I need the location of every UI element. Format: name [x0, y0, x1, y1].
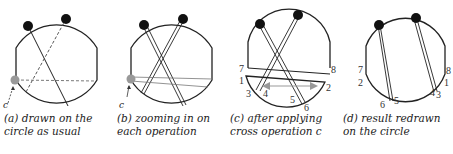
- panel-c: 7 8 1 2 3 4 5 6 (c) after applying cross…: [226, 0, 339, 154]
- svg-text:3: 3: [436, 89, 441, 100]
- caption-line-2: circle as usual: [4, 125, 116, 138]
- circle-diagram-a: [0, 0, 113, 112]
- panel-a: c (a) drawn on the circle as usual: [0, 0, 113, 154]
- svg-text:8: 8: [446, 65, 451, 76]
- svg-text:5: 5: [290, 94, 295, 105]
- svg-text:3: 3: [246, 88, 251, 99]
- svg-text:7: 7: [239, 63, 244, 74]
- caption-b: (b) zooming in on each operation: [117, 112, 229, 138]
- marker-label: c: [3, 99, 115, 112]
- svg-text:8: 8: [331, 64, 336, 75]
- svg-text:6: 6: [304, 102, 309, 112]
- caption-line-1: (a) drawn on the: [4, 112, 116, 125]
- svg-text:2: 2: [326, 82, 331, 93]
- circle-diagram-c: 7 8 1 2 3 4 5 6: [226, 0, 339, 112]
- caption-line-2: each operation: [117, 125, 229, 138]
- caption-line-1: (b) zooming in on: [117, 112, 229, 125]
- circle-diagram-d: 7 2 8 1 4 3 5 6: [339, 0, 453, 112]
- caption-d: (d) result redrawn on the circle: [343, 112, 453, 138]
- svg-text:4: 4: [430, 87, 435, 98]
- marker-label: c: [119, 99, 231, 112]
- caption-line-2: cross operation c: [230, 125, 342, 138]
- caption-a: (a) drawn on the circle as usual: [4, 112, 116, 138]
- svg-text:7: 7: [358, 64, 363, 75]
- cross-node: [11, 76, 20, 85]
- svg-text:5: 5: [394, 95, 399, 106]
- circle-diagram-b: [113, 0, 226, 112]
- svg-text:6: 6: [380, 99, 385, 110]
- node-right: [61, 14, 71, 24]
- caption-line-1: (c) after applying: [230, 112, 342, 125]
- svg-text:1: 1: [444, 77, 449, 88]
- caption-line-1: (d) result redrawn: [343, 112, 453, 125]
- caption-line-2: on the circle: [343, 125, 453, 138]
- svg-text:2: 2: [358, 77, 363, 88]
- svg-text:1: 1: [239, 75, 244, 86]
- panel-b: c (b) zooming in on each operation: [113, 0, 226, 154]
- caption-c: (c) after applying cross operation c: [230, 112, 342, 138]
- node-left: [23, 21, 33, 31]
- panel-d: 7 2 8 1 4 3 5 6 (d) result redrawn on th…: [339, 0, 452, 154]
- svg-text:4: 4: [263, 88, 268, 99]
